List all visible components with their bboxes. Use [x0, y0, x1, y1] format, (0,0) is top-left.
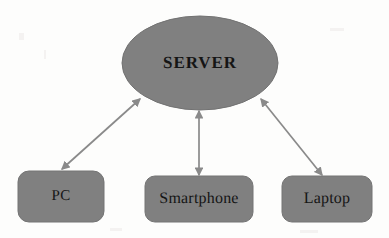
edge-laptop-server	[261, 99, 322, 175]
node-smartphone-shape[interactable]	[145, 176, 253, 222]
node-pc-shape[interactable]	[18, 171, 104, 222]
node-server-shape[interactable]	[122, 16, 278, 110]
network-topology-diagram: SERVER PC Smartphone Laptop	[0, 0, 389, 238]
edge-pc-server	[62, 99, 140, 169]
diagram-canvas	[0, 0, 389, 238]
node-laptop-shape[interactable]	[282, 176, 372, 222]
